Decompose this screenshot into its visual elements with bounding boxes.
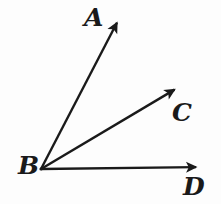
point-label-a: A: [84, 5, 103, 30]
ray-b-to-d: [41, 167, 196, 169]
vertex-point-b: [39, 167, 42, 170]
angle-diagram-canvas: A B C D: [0, 0, 221, 204]
point-label-d: D: [183, 174, 205, 199]
point-label-b: B: [18, 153, 39, 178]
point-label-c: C: [172, 100, 192, 125]
